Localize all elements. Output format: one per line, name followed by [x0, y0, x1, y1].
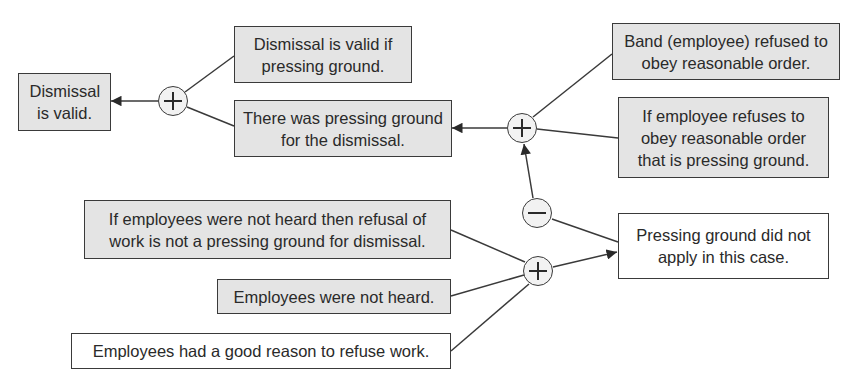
- premise-good-reason: Employees had a good reason to refuse wo…: [71, 333, 451, 369]
- conclusion-dismissal-valid: Dismissal is valid.: [18, 73, 111, 131]
- node-text: If employee refuses to obey reasonable o…: [625, 105, 822, 171]
- plus-connector-icon: [158, 86, 188, 116]
- premise-rule-refuse: If employee refuses to obey reasonable o…: [618, 97, 829, 178]
- premise-band-refused: Band (employee) refused to obey reasonab…: [612, 23, 840, 80]
- node-text: Dismissal is valid if pressing ground.: [248, 33, 398, 77]
- plus-connector-icon: [507, 113, 537, 143]
- premise-dismissal-valid-if-pressing: Dismissal is valid if pressing ground.: [234, 26, 412, 83]
- node-text: If employees were not heard then refusal…: [93, 208, 443, 252]
- node-text: Employees were not heard.: [234, 286, 435, 308]
- node-text: Pressing ground did not apply in this ca…: [634, 224, 814, 268]
- premise-rule-not-heard: If employees were not heard then refusal…: [84, 200, 451, 259]
- node-text: Band (employee) refused to obey reasonab…: [619, 30, 833, 74]
- node-text: Dismissal is valid.: [30, 80, 100, 124]
- premise-not-heard: Employees were not heard.: [217, 279, 451, 314]
- rebuttal-not-apply: Pressing ground did not apply in this ca…: [618, 213, 829, 279]
- minus-connector-icon: [522, 198, 552, 228]
- node-text: There was pressing ground for the dismis…: [243, 107, 443, 151]
- node-text: Employees had a good reason to refuse wo…: [93, 340, 430, 362]
- premise-pressing-ground: There was pressing ground for the dismis…: [234, 100, 452, 157]
- plus-connector-icon: [523, 256, 553, 286]
